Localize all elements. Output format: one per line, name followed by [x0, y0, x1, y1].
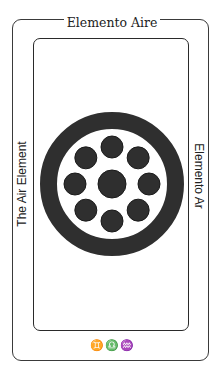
orbit-dot	[75, 147, 97, 169]
orbit-dot	[64, 173, 86, 195]
orbit-dot	[127, 147, 149, 169]
air-element-emblem	[0, 0, 224, 382]
orbit-dot	[138, 173, 160, 195]
zodiac-symbols: ♊♎♒	[0, 340, 224, 352]
orbit-dot	[101, 136, 123, 158]
orbit-dot	[127, 199, 149, 221]
orbit-dot	[101, 210, 123, 232]
orbit-dot	[75, 199, 97, 221]
center-dot	[98, 170, 126, 198]
